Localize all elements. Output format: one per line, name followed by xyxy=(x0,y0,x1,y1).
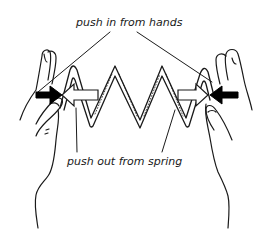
hand-push-arrow-left xyxy=(36,86,62,104)
right-hand xyxy=(205,50,252,229)
hand-push-arrow-right xyxy=(210,86,238,104)
label-push-in-from-hands: push in from hands xyxy=(76,16,182,29)
spring-push-arrow-right xyxy=(178,84,208,106)
label-push-out-from-spring: push out from spring xyxy=(67,155,182,168)
spring-force-diagram: push in from hands push out from spring xyxy=(0,0,266,246)
spring-push-arrow-left xyxy=(62,84,98,106)
diagram-drawing xyxy=(0,0,266,246)
